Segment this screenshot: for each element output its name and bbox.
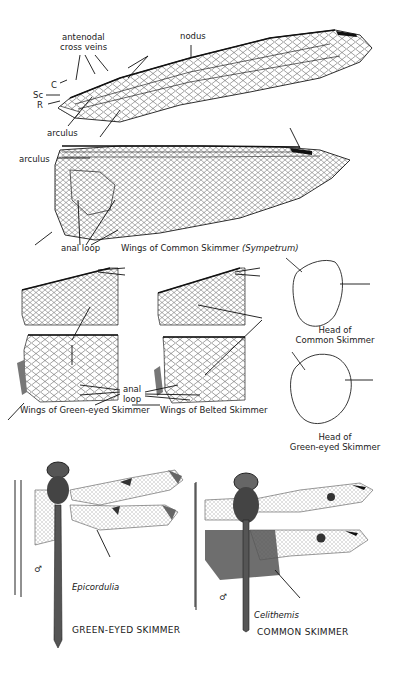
sex-symbol-right: ♂	[219, 592, 227, 602]
name-green-eyed-skimmer: GREEN-EYED SKIMMER	[72, 625, 180, 635]
genus-epicordulia: Epicordulia	[72, 582, 119, 592]
dragonfly-illustrations	[0, 0, 395, 679]
sex-symbol-left: ♂	[34, 564, 42, 574]
name-common-skimmer: COMMON SKIMMER	[257, 627, 349, 637]
common-skimmer-illustration	[196, 473, 373, 632]
genus-celithemis: Celithemis	[254, 610, 299, 620]
field-guide-plate: antenodal cross veins nodus C Sc R arcul…	[0, 0, 395, 679]
green-eyed-skimmer-illustration	[15, 462, 195, 648]
